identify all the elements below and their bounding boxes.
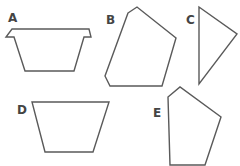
shape-a-label: A — [8, 11, 18, 25]
shape-a-outline — [6, 29, 91, 71]
shape-d: D — [17, 102, 109, 152]
shape-e-label: E — [153, 106, 161, 120]
shape-e: E — [153, 87, 221, 165]
shape-c-label: C — [186, 13, 195, 27]
shape-e-outline — [168, 87, 221, 165]
shapes-diagram: A B C D E — [0, 0, 240, 166]
shape-c: C — [186, 7, 237, 84]
shape-d-label: D — [17, 103, 27, 117]
shape-d-outline — [32, 102, 109, 152]
shape-c-outline — [199, 7, 237, 84]
shape-b: B — [105, 7, 176, 86]
shape-b-label: B — [106, 13, 115, 27]
shape-b-outline — [105, 7, 176, 86]
shape-a: A — [6, 11, 91, 71]
